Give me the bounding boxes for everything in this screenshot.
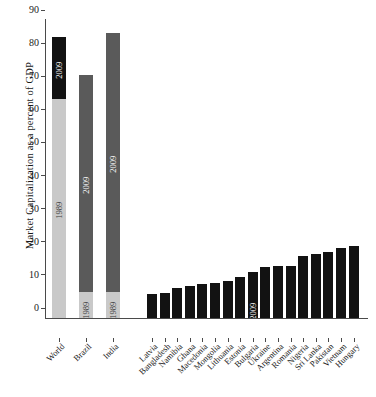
inbar-label-2009: 2009 xyxy=(249,302,258,318)
y-axis-tick-mark xyxy=(41,308,45,309)
bar-segment-2009 xyxy=(273,266,283,318)
x-axis-label: World xyxy=(60,327,81,348)
y-axis-tick-mark xyxy=(41,208,45,209)
bar-latvia[interactable] xyxy=(147,294,157,318)
y-axis-tick-label: 40 xyxy=(29,171,39,181)
inbar-label-1989: 1989 xyxy=(55,202,64,219)
bar-mongolia[interactable] xyxy=(210,283,220,318)
y-axis-tick-mark xyxy=(41,43,45,44)
bar-sri-lanka[interactable] xyxy=(311,254,321,318)
bar-segment-2009 xyxy=(323,252,333,318)
bar-ukraine[interactable] xyxy=(260,267,270,318)
bar-segment-2009 xyxy=(298,256,308,318)
bar-hungary[interactable] xyxy=(349,246,359,318)
y-axis-tick-label: 20 xyxy=(29,237,39,247)
y-axis-tick-mark xyxy=(41,142,45,143)
bar-segment-2009 xyxy=(349,246,359,318)
y-axis-tick: 40 xyxy=(29,171,45,181)
x-axis-label-text: Brazil xyxy=(72,342,93,363)
bar-segment-2009 xyxy=(286,266,296,318)
bar-vietnam[interactable] xyxy=(336,248,346,318)
y-axis-tick-label: 60 xyxy=(29,104,39,114)
inbar-label-2009: 2009 xyxy=(55,61,64,78)
inbar-label-1989: 1989 xyxy=(109,301,118,318)
y-axis-tick-label: 30 xyxy=(29,204,39,214)
bar-segment-2009 xyxy=(235,277,245,318)
y-axis-tick-mark xyxy=(41,109,45,110)
x-axis-label: India xyxy=(114,330,133,349)
bar-segment-2009 xyxy=(210,283,220,318)
bar-pakistan[interactable] xyxy=(323,252,333,318)
inbar-label-2009: 2009 xyxy=(82,176,91,193)
bar-segment-2009 xyxy=(260,267,270,318)
y-axis-tick: 30 xyxy=(29,204,45,214)
bar-segment-2009 xyxy=(336,248,346,318)
y-axis-tick: 90 xyxy=(29,5,45,15)
x-axis-label-text: India xyxy=(102,342,121,361)
y-axis-tick: 50 xyxy=(29,137,45,147)
bar-segment-2009 xyxy=(223,281,233,318)
bar-bangladesh[interactable] xyxy=(160,293,170,318)
bar-segment-2009 xyxy=(160,293,170,318)
y-axis-tick-label: 70 xyxy=(29,71,39,81)
y-axis-tick-label: 80 xyxy=(29,38,39,48)
plot-area: 0102030405060708090 20091989200919892009… xyxy=(46,20,368,318)
bar-estonia[interactable] xyxy=(235,277,245,318)
bar-romania[interactable] xyxy=(286,266,296,318)
bar-argentina[interactable] xyxy=(273,266,283,318)
y-axis-tick: 0 xyxy=(34,303,45,313)
y-axis-tick-mark xyxy=(41,175,45,176)
bar-nigeria[interactable] xyxy=(298,256,308,318)
y-axis-tick-mark xyxy=(41,76,45,77)
bar-bulgaria[interactable]: 2009 xyxy=(248,272,258,318)
y-axis-tick: 20 xyxy=(29,237,45,247)
bar-brazil[interactable]: 20091989 xyxy=(79,75,93,318)
x-axis-label-text: World xyxy=(45,342,66,363)
inbar-label-2009: 2009 xyxy=(109,156,118,173)
y-axis-tick-label: 50 xyxy=(29,137,39,147)
x-axis-label: Brazil xyxy=(87,327,108,348)
bar-india[interactable]: 20091989 xyxy=(106,33,120,318)
market-capitalization-bar-chart: Market Capitalization as a percent of GD… xyxy=(0,0,376,397)
y-axis-tick: 70 xyxy=(29,71,45,81)
y-axis-tick-label: 10 xyxy=(29,270,39,280)
y-axis-tick: 80 xyxy=(29,38,45,48)
bar-segment-2009 xyxy=(147,294,157,318)
bar-lithuania[interactable] xyxy=(223,281,233,318)
y-axis-tick-label: 90 xyxy=(29,5,39,15)
y-axis-tick: 10 xyxy=(29,270,45,280)
y-axis-tick-mark xyxy=(41,10,45,11)
bar-macedonia[interactable] xyxy=(197,284,207,318)
inbar-label-1989: 1989 xyxy=(82,301,91,318)
y-axis-tick: 60 xyxy=(29,104,45,114)
bar-segment-2009 xyxy=(311,254,321,318)
y-axis-tick-label: 0 xyxy=(34,303,39,313)
bar-namibia[interactable] xyxy=(172,288,182,318)
bar-segment-2009 xyxy=(172,288,182,318)
x-axis-line xyxy=(45,318,368,319)
bar-segment-2009 xyxy=(197,284,207,318)
y-axis-tick-mark xyxy=(41,274,45,275)
y-axis-tick-mark xyxy=(41,241,45,242)
bar-world[interactable]: 20091989 xyxy=(52,37,66,318)
